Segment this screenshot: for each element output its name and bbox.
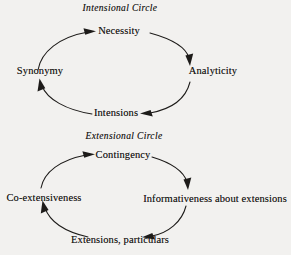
- edge-necessity-to-analyticity: [150, 33, 193, 66]
- node-label-extensions-particulars: Extensions, particulars: [71, 235, 169, 246]
- edge-extensions-to-coextensiveness: [41, 201, 88, 238]
- node-label-analyticity: Analyticity: [189, 66, 237, 77]
- edge-path: [42, 86, 92, 114]
- arrowhead-icon: [82, 151, 95, 158]
- extensional-circle-title: Extensional Circle: [86, 132, 163, 142]
- edge-intensions-to-synonymy: [38, 79, 93, 115]
- node-label-intensions: Intensions: [94, 108, 138, 119]
- edge-path: [150, 33, 189, 58]
- edge-path: [152, 157, 187, 182]
- edge-path: [41, 155, 86, 188]
- arrowhead-icon: [184, 178, 192, 191]
- node-label-contingency: Contingency: [96, 150, 151, 161]
- edge-coextensiveness-to-contingency: [41, 151, 95, 188]
- figure-canvas: Intensional Circle Necessity Analyticity…: [0, 0, 291, 255]
- edge-analyticity-to-intensions: [140, 82, 190, 117]
- edge-path: [45, 208, 88, 237]
- edge-path: [150, 82, 190, 113]
- edge-contingency-to-informativeness: [152, 157, 191, 190]
- edge-synonymy-to-necessity: [38, 28, 96, 70]
- edge-path: [152, 206, 186, 236]
- arrowhead-icon: [84, 28, 97, 35]
- intensional-circle-title: Intensional Circle: [83, 4, 158, 14]
- node-label-necessity: Necessity: [98, 26, 140, 37]
- node-label-synonymy: Synonymy: [17, 66, 63, 77]
- diagram-arcs: [0, 0, 291, 255]
- node-label-co-extensiveness: Co-extensiveness: [6, 193, 81, 204]
- arrowhead-icon: [140, 110, 153, 117]
- node-label-informativeness-about-extensions: Informativeness about extensions: [143, 194, 287, 205]
